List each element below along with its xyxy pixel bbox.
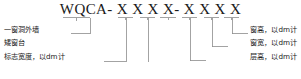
label-window-height: 窗高，以dm计 — [250, 25, 297, 34]
label-wall-type: 一窗洞外墙 — [4, 25, 39, 34]
label-mark-width: 标志宽度，以dm计 — [4, 52, 65, 61]
label-window-width: 窗宽，以dm计 — [250, 38, 297, 47]
label-storey-height: 层高，以dm计 — [250, 52, 297, 61]
label-low-sill: 矮窗台 — [4, 38, 25, 47]
code-designation-diagram: WQCA- X X X X- X X X X — [0, 0, 301, 79]
